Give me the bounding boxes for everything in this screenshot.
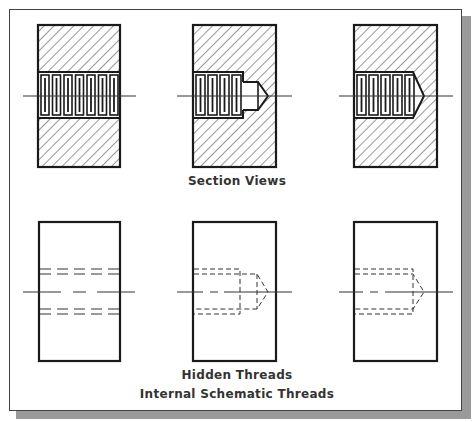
hidden-view-through-hole	[23, 222, 135, 361]
caption-internal-schematic-threads: Internal Schematic Threads	[0, 387, 474, 401]
caption-section-views: Section Views	[0, 174, 474, 188]
section-view-blind-hole-2	[339, 25, 453, 167]
hidden-view-blind-hole-2	[339, 222, 453, 361]
thread-drawing	[0, 0, 474, 422]
section-view-through-hole	[23, 25, 136, 167]
caption-hidden-threads: Hidden Threads	[0, 368, 474, 382]
section-view-blind-hole-1	[177, 25, 292, 167]
hidden-view-blind-hole-1	[177, 222, 292, 361]
